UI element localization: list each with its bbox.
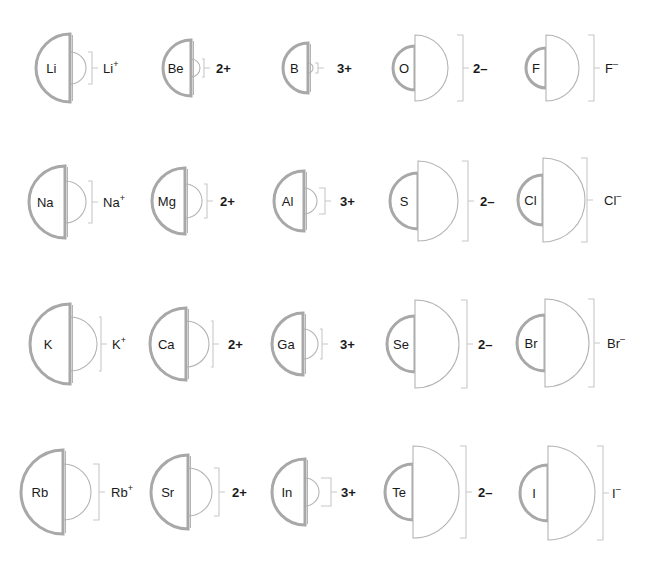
element-pair-s: S2– bbox=[390, 161, 494, 241]
size-bracket bbox=[93, 464, 105, 520]
atom-symbol: Br bbox=[525, 336, 539, 351]
ion-label: Cl– bbox=[604, 191, 621, 208]
element-pair-li: LiLi+ bbox=[36, 34, 118, 102]
element-pair-k: KK+ bbox=[30, 304, 126, 384]
ion-charge-label: 2+ bbox=[228, 337, 243, 352]
ion-charge-label: 2+ bbox=[216, 61, 231, 76]
size-bracket bbox=[461, 300, 473, 388]
ion-label: Br– bbox=[607, 334, 625, 351]
ion-charge-label: 2– bbox=[473, 61, 487, 76]
ion-half-shape bbox=[186, 321, 209, 367]
ion-symbol: Rb bbox=[111, 485, 128, 500]
atom-symbol: Se bbox=[393, 337, 409, 352]
element-pair-rb: RbRb+ bbox=[21, 450, 133, 534]
atom-symbol: Ga bbox=[277, 337, 295, 352]
size-bracket bbox=[597, 446, 609, 540]
atom-symbol: Li bbox=[46, 61, 56, 76]
atom-symbol: F bbox=[532, 61, 540, 76]
atom-symbol: B bbox=[290, 61, 299, 76]
element-pair-in: In3+ bbox=[272, 459, 356, 525]
ion-charge-superscript: – bbox=[613, 59, 618, 69]
ion-charge-label: 2+ bbox=[232, 485, 247, 500]
atom-symbol: Mg bbox=[158, 194, 176, 209]
atom-symbol: S bbox=[400, 194, 409, 209]
ion-half-shape bbox=[548, 446, 595, 540]
size-bracket bbox=[588, 299, 600, 387]
ion-charge-label: 2– bbox=[478, 485, 492, 500]
atom-ion-size-diagram: LiLi+Be2+B3+O2–FF–NaNa+Mg2+Al3+S2–ClCl–K… bbox=[0, 0, 660, 570]
size-bracket bbox=[88, 181, 98, 223]
ion-charge-superscript: + bbox=[113, 59, 118, 69]
atom-symbol: Sr bbox=[161, 485, 175, 500]
size-bracket bbox=[588, 35, 600, 101]
ion-half-shape bbox=[188, 468, 212, 516]
atom-symbol: O bbox=[399, 61, 409, 76]
ion-charge-label: 2– bbox=[480, 194, 494, 209]
ion-half-shape bbox=[70, 317, 97, 371]
atom-symbol: Al bbox=[282, 194, 294, 209]
size-bracket bbox=[460, 446, 472, 538]
element-pair-o: O2– bbox=[393, 35, 487, 101]
size-bracket bbox=[202, 59, 210, 77]
element-pair-ca: Ca2+ bbox=[150, 308, 243, 380]
ion-charge-label: 3+ bbox=[340, 194, 355, 209]
ion-charge-label: 2+ bbox=[220, 194, 235, 209]
atom-symbol: In bbox=[281, 485, 292, 500]
ion-symbol: Br bbox=[607, 336, 621, 351]
size-bracket bbox=[462, 161, 474, 241]
size-bracket bbox=[319, 188, 331, 214]
ion-half-shape bbox=[304, 188, 317, 214]
ion-half-shape bbox=[415, 35, 448, 101]
ion-label: Rb+ bbox=[111, 483, 133, 500]
element-pair-b: B3+ bbox=[283, 43, 352, 93]
ion-half-shape bbox=[545, 299, 589, 387]
size-bracket bbox=[320, 329, 328, 359]
atom-symbol: Rb bbox=[32, 485, 49, 500]
ion-symbol: Li bbox=[103, 61, 113, 76]
size-bracket bbox=[88, 52, 98, 84]
element-pair-al: Al3+ bbox=[274, 171, 355, 231]
atom-symbol: Na bbox=[37, 195, 54, 210]
size-bracket bbox=[204, 184, 213, 218]
ion-charge-superscript: – bbox=[616, 191, 621, 201]
ion-label: Na+ bbox=[103, 193, 125, 210]
ion-half-shape bbox=[415, 300, 459, 388]
ion-half-shape bbox=[63, 464, 91, 520]
size-bracket bbox=[99, 317, 107, 371]
ion-label: F– bbox=[605, 59, 618, 76]
ion-charge-label: 3+ bbox=[341, 485, 356, 500]
element-pair-be: Be2+ bbox=[163, 40, 231, 96]
atom-symbol: K bbox=[44, 337, 53, 352]
element-pair-te: Te2– bbox=[385, 446, 492, 538]
ion-charge-label: 2– bbox=[478, 337, 492, 352]
atom-symbol: I bbox=[532, 486, 536, 501]
ion-label: K+ bbox=[112, 335, 126, 352]
ion-charge-superscript: + bbox=[120, 193, 125, 203]
ion-symbol: K bbox=[112, 337, 121, 352]
element-pair-mg: Mg2+ bbox=[152, 168, 235, 234]
ion-half-shape bbox=[546, 35, 579, 101]
ion-half-shape bbox=[543, 158, 585, 242]
ion-symbol: Cl bbox=[604, 193, 616, 208]
ion-symbol: Na bbox=[103, 195, 120, 210]
ion-charge-label: 3+ bbox=[337, 61, 352, 76]
element-pair-se: Se2– bbox=[387, 300, 492, 388]
ion-charge-superscript: – bbox=[616, 484, 621, 494]
atom-symbol: Ca bbox=[158, 337, 175, 352]
element-pair-ga: Ga3+ bbox=[272, 313, 355, 375]
ion-charge-label: 3+ bbox=[340, 337, 355, 352]
element-pair-i: II– bbox=[520, 446, 621, 540]
size-bracket bbox=[214, 468, 225, 516]
element-pair-br: BrBr– bbox=[517, 299, 625, 387]
atom-symbol: Te bbox=[392, 485, 406, 500]
ion-half-shape bbox=[418, 161, 458, 241]
element-pair-na: NaNa+ bbox=[29, 166, 125, 238]
ion-label: I– bbox=[612, 484, 621, 501]
ion-charge-superscript: – bbox=[620, 334, 625, 344]
atom-symbol: Cl bbox=[524, 193, 536, 208]
ion-symbol: F bbox=[605, 61, 613, 76]
ion-charge-superscript: + bbox=[121, 335, 126, 345]
ion-half-shape bbox=[413, 446, 459, 538]
ion-charge-superscript: + bbox=[128, 483, 133, 493]
size-bracket bbox=[211, 321, 219, 367]
